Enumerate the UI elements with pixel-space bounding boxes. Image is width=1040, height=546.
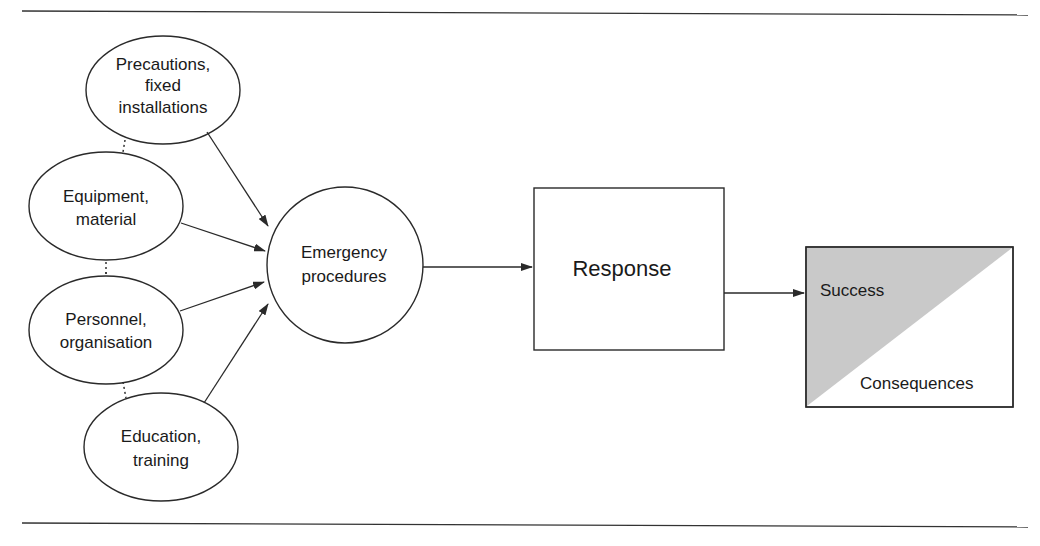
- input-label-line: material: [76, 210, 136, 229]
- input-label-line: Education,: [121, 427, 201, 446]
- success-label: Success: [820, 281, 884, 300]
- input-label-line: training: [133, 451, 189, 470]
- hub-label-line: procedures: [301, 267, 386, 286]
- input-label-line: Equipment,: [63, 187, 149, 206]
- consequences-label: Consequences: [860, 374, 973, 393]
- input-label-line: Personnel,: [65, 310, 146, 329]
- input-node-equipment: Equipment, material: [29, 152, 183, 260]
- input-node-precautions: Precautions, fixed installations: [86, 36, 240, 144]
- arrow-personnel-to-hub: [180, 282, 264, 311]
- outcome-node: Success Consequences: [806, 247, 1013, 407]
- input-node-education: Education, training: [84, 393, 238, 501]
- input-label-line: fixed: [145, 76, 181, 95]
- emergency-response-diagram: Precautions, fixed installations Equipme…: [0, 0, 1040, 546]
- arrow-precautions-to-hub: [207, 132, 268, 226]
- hub-node-emergency-procedures: Emergency procedures: [267, 187, 423, 343]
- hub-label-line: Emergency: [301, 243, 387, 262]
- bottom-rule: [22, 523, 1028, 527]
- input-node-personnel: Personnel, organisation: [29, 276, 183, 384]
- input-label-line: Precautions,: [116, 55, 211, 74]
- top-rule: [22, 11, 1028, 15]
- arrow-education-to-hub: [204, 304, 268, 403]
- dotted-connector: [123, 382, 126, 398]
- response-node: Response: [534, 188, 724, 350]
- response-label: Response: [572, 256, 671, 281]
- arrow-equipment-to-hub: [181, 223, 265, 251]
- input-label-line: installations: [119, 98, 208, 117]
- input-label-line: organisation: [60, 333, 153, 352]
